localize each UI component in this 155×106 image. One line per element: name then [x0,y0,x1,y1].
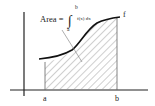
curve-label: f [123,10,126,19]
integral-diagram: Area = ∫ b a f(x) dx f a b [0,0,155,106]
formula-lhs: Area = [40,14,64,24]
integrand: f(x) dx [77,16,91,21]
label-b: b [115,94,119,103]
upper-limit: b [75,4,78,10]
label-a: a [43,94,47,103]
